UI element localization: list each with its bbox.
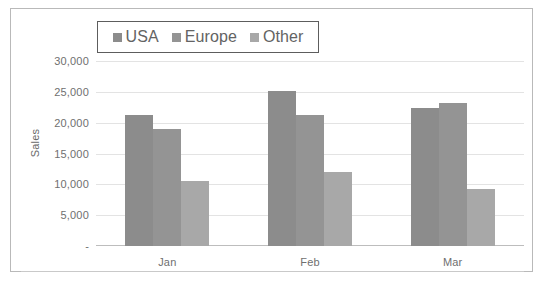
chart-legend[interactable]: USA Europe Other [97,21,319,53]
y-axis-tick-label: - [85,240,89,252]
y-axis-title: Sales [29,113,41,173]
legend-label-other: Other [263,29,304,45]
bar-feb-other[interactable] [324,172,352,246]
bar-mar-usa[interactable] [411,108,439,246]
y-axis-tick-label: 5,000 [60,209,89,221]
bar-feb-europe[interactable] [296,115,324,246]
y-axis-tick-label: 20,000 [54,117,89,129]
bar-group-mar: Mar [381,61,524,246]
legend-item-europe[interactable]: Europe [172,29,237,45]
x-axis-label-mar: Mar [381,256,524,268]
plot-area: 30,00025,00020,00015,00010,0005,000- Jan… [96,61,524,246]
legend-label-usa: USA [126,29,159,45]
legend-swatch-europe-icon [172,33,181,42]
bar-groups: JanFebMar [96,61,524,246]
bar-group-jan: Jan [96,61,239,246]
legend-swatch-other-icon [250,33,259,42]
legend-item-usa[interactable]: USA [113,29,159,45]
y-axis-tick-label: 25,000 [54,86,89,98]
x-axis-label-feb: Feb [239,256,382,268]
y-axis-tick-label: 10,000 [54,178,89,190]
legend-swatch-usa-icon [113,33,122,42]
y-axis-tick-label: 30,000 [54,55,89,67]
bar-feb-usa[interactable] [268,91,296,246]
bar-group-feb: Feb [239,61,382,246]
x-axis-label-jan: Jan [96,256,239,268]
legend-label-europe: Europe [185,29,237,45]
bar-mar-other[interactable] [467,189,495,246]
bar-jan-other[interactable] [181,181,209,246]
bar-jan-europe[interactable] [153,129,181,246]
bar-mar-europe[interactable] [439,103,467,246]
bar-jan-usa[interactable] [125,115,153,246]
legend-item-other[interactable]: Other [250,29,304,45]
chart-container: USA Europe Other Sales 30,00025,00020,00… [10,8,533,272]
y-axis-tick-label: 15,000 [54,148,89,160]
category-axis-line [21,271,524,272]
